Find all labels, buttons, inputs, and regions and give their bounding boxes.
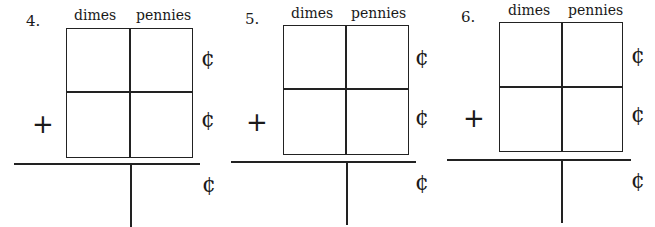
dimes-header: dimes bbox=[291, 5, 333, 21]
cent-sign: ¢ bbox=[201, 107, 215, 132]
problem-6: 6. dimes pennies + ¢ ¢ ¢ bbox=[433, 0, 655, 227]
answer-dimes-cell[interactable] bbox=[500, 162, 561, 220]
sum-line bbox=[231, 161, 416, 163]
bottom-dimes-cell[interactable] bbox=[284, 90, 345, 154]
top-pennies-cell[interactable] bbox=[347, 26, 408, 88]
top-pennies-cell[interactable] bbox=[131, 29, 192, 91]
answer-pennies-cell[interactable] bbox=[563, 162, 623, 220]
problem-number: 6. bbox=[461, 8, 475, 26]
plus-sign: + bbox=[463, 103, 485, 133]
cent-sign: ¢ bbox=[415, 170, 429, 195]
answer-pennies-cell[interactable] bbox=[132, 166, 194, 224]
answer-dimes-cell[interactable] bbox=[284, 164, 345, 222]
problem-number: 4. bbox=[26, 12, 40, 30]
sum-line bbox=[14, 163, 200, 165]
problem-4: 4. dimes pennies + ¢ ¢ ¢ bbox=[0, 0, 220, 227]
problem-5: 5. dimes pennies + ¢ ¢ ¢ bbox=[217, 0, 437, 227]
dimes-header: dimes bbox=[508, 2, 550, 18]
bottom-dimes-cell[interactable] bbox=[67, 93, 129, 157]
cent-sign: ¢ bbox=[415, 105, 429, 130]
top-dimes-cell[interactable] bbox=[284, 26, 345, 88]
bottom-pennies-cell[interactable] bbox=[563, 88, 622, 151]
cent-sign: ¢ bbox=[201, 46, 215, 71]
cent-sign: ¢ bbox=[631, 43, 645, 68]
pennies-header: pennies bbox=[568, 2, 623, 18]
cent-sign: ¢ bbox=[415, 45, 429, 70]
dimes-header: dimes bbox=[74, 7, 116, 23]
cent-sign: ¢ bbox=[631, 168, 645, 193]
top-dimes-cell[interactable] bbox=[67, 29, 129, 91]
bottom-dimes-cell[interactable] bbox=[500, 88, 561, 151]
answer-dimes-cell[interactable] bbox=[67, 166, 129, 224]
cent-sign: ¢ bbox=[631, 102, 645, 127]
bottom-pennies-cell[interactable] bbox=[347, 90, 408, 154]
bottom-pennies-cell[interactable] bbox=[131, 93, 192, 157]
top-dimes-cell[interactable] bbox=[500, 23, 561, 85]
answer-pennies-cell[interactable] bbox=[348, 164, 409, 222]
cent-sign: ¢ bbox=[202, 172, 216, 197]
pennies-header: pennies bbox=[136, 7, 191, 23]
sum-line bbox=[447, 159, 631, 161]
plus-sign: + bbox=[246, 107, 268, 137]
problem-number: 5. bbox=[245, 10, 259, 28]
top-pennies-cell[interactable] bbox=[563, 23, 622, 85]
pennies-header: pennies bbox=[351, 5, 406, 21]
plus-sign: + bbox=[32, 109, 54, 139]
